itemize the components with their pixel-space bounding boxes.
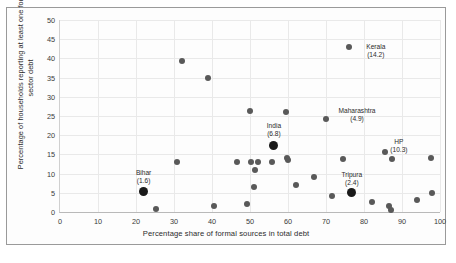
point-annotation: Bihar(1.6) (136, 169, 151, 185)
data-point (389, 156, 395, 162)
data-point (285, 157, 291, 163)
data-point (174, 159, 180, 165)
y-axis-tick-label: 35 (47, 73, 55, 82)
data-point-india (269, 141, 278, 150)
data-point (153, 206, 159, 212)
x-axis-title: Percentage share of formal sources in to… (7, 229, 445, 238)
data-point (211, 203, 217, 209)
y-axis-tick-label: 40 (47, 54, 55, 63)
y-axis-tick-label: 10 (47, 169, 55, 178)
data-point (255, 159, 261, 165)
y-axis-tick-label: 30 (47, 92, 55, 101)
point-label-name: Kerala (366, 43, 385, 50)
x-axis-tick-label: 80 (360, 217, 368, 226)
data-point (429, 190, 435, 196)
data-point (205, 75, 211, 81)
point-label-value: (10.3) (390, 146, 407, 154)
plot-area: 0102030405060708090100051015202530354045… (59, 20, 440, 213)
x-axis-tick-label: 0 (58, 217, 62, 226)
chart-figure: Percentage of households reporting at le… (6, 7, 446, 245)
data-point (269, 159, 275, 165)
y-gridline (60, 20, 440, 21)
data-point (369, 199, 375, 205)
point-label-value: (1.6) (136, 177, 151, 185)
y-gridline (60, 97, 440, 98)
point-annotation: HP(10.3) (390, 138, 407, 154)
data-point (252, 167, 258, 173)
y-gridline (60, 174, 440, 175)
y-axis-title: Percentage of households reporting at le… (16, 0, 36, 173)
data-point (293, 182, 299, 188)
y-axis-tick-label: 20 (47, 131, 55, 140)
x-axis-tick-label: 90 (398, 217, 406, 226)
data-point (414, 197, 420, 203)
data-point (340, 156, 346, 162)
y-gridline (60, 78, 440, 79)
data-point (428, 155, 434, 161)
data-point (329, 193, 335, 199)
data-point (247, 108, 253, 114)
data-point (179, 58, 185, 64)
data-point-maharashtra (323, 116, 329, 122)
point-label-name: India (267, 122, 281, 129)
y-axis-tick-label: 5 (51, 188, 55, 197)
data-point-tripura (347, 188, 356, 197)
y-gridline (60, 135, 440, 136)
x-axis-tick-label: 70 (322, 217, 330, 226)
data-point (248, 159, 254, 165)
data-point (311, 174, 317, 180)
x-axis-tick-label: 100 (434, 217, 446, 226)
y-axis-tick-label: 15 (47, 150, 55, 159)
x-axis-tick-label: 20 (132, 217, 140, 226)
y-axis-tick-label: 50 (47, 16, 55, 25)
data-point-bihar (139, 187, 148, 196)
data-point (388, 207, 394, 213)
point-label-value: (2.4) (342, 179, 363, 187)
point-label-value: (6.8) (267, 130, 281, 138)
y-axis-tick-label: 45 (47, 35, 55, 44)
y-axis-tick-label: 0 (51, 208, 55, 217)
x-axis-tick-label: 40 (208, 217, 216, 226)
point-label-name: Maharashtra (338, 107, 375, 114)
data-point (234, 159, 240, 165)
point-annotation: Kerala(14.2) (366, 43, 385, 59)
data-point (251, 184, 257, 190)
y-gridline (60, 193, 440, 194)
x-axis-tick-label: 60 (284, 217, 292, 226)
x-axis-tick-label: 10 (94, 217, 102, 226)
y-gridline (60, 116, 440, 117)
data-point-kerala (346, 44, 352, 50)
y-gridline (60, 39, 440, 40)
x-axis-tick-label: 50 (246, 217, 254, 226)
y-gridline (60, 58, 440, 59)
x-gridline (440, 20, 441, 212)
y-axis-tick-label: 25 (47, 112, 55, 121)
x-axis-tick-label: 30 (170, 217, 178, 226)
